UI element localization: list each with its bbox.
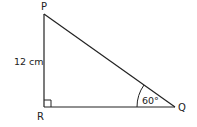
vertex-label-p: P: [41, 1, 47, 12]
side-label-pr: 12 cm: [14, 56, 44, 67]
vertex-label-q: Q: [178, 102, 186, 113]
angle-label-q: 60°: [142, 95, 159, 106]
triangle-diagram: P R Q 12 cm 60°: [0, 0, 197, 127]
side-pq: [44, 14, 175, 107]
right-angle-marker: [44, 100, 51, 107]
vertex-label-r: R: [37, 111, 44, 122]
